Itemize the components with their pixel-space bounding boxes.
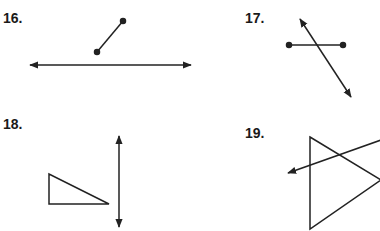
figure-17 xyxy=(287,19,352,97)
endpoint-dot xyxy=(121,19,126,24)
line-17 xyxy=(300,19,351,97)
figure-16 xyxy=(30,19,191,66)
endpoint-dot xyxy=(95,50,100,55)
endpoint-dot xyxy=(287,43,292,48)
triangle-18 xyxy=(49,174,109,204)
ray-19 xyxy=(288,140,380,173)
triangle-19 xyxy=(310,137,380,229)
figure-18 xyxy=(49,136,119,227)
endpoint-dot xyxy=(341,43,346,48)
figure-19 xyxy=(288,137,380,229)
segment-16 xyxy=(97,21,123,52)
geometry-figures xyxy=(0,0,380,231)
